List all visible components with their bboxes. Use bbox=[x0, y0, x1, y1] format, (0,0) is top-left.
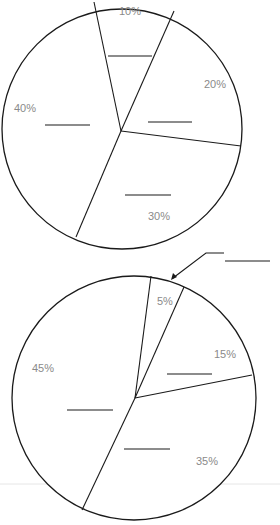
label-20-percent: 20% bbox=[204, 78, 226, 90]
label-45-percent: 45% bbox=[32, 362, 54, 374]
pie-charts-figure: 10% 20% 40% 30% 5% 15% 45% 35% bbox=[0, 0, 280, 525]
pie-chart-1: 10% 20% 40% 30% bbox=[2, 2, 242, 249]
callout-arrowhead-icon bbox=[171, 273, 177, 280]
label-10-percent: 10% bbox=[119, 5, 141, 17]
label-5-percent: 5% bbox=[157, 295, 173, 307]
callout-leader-line bbox=[173, 253, 224, 278]
label-35-percent: 35% bbox=[196, 455, 218, 467]
label-15-percent: 15% bbox=[214, 348, 236, 360]
pie-chart-2: 5% 15% 45% 35% bbox=[12, 253, 270, 520]
label-30-percent: 30% bbox=[148, 210, 170, 222]
pie-2-outline bbox=[12, 276, 256, 520]
label-40-percent: 40% bbox=[14, 102, 36, 114]
